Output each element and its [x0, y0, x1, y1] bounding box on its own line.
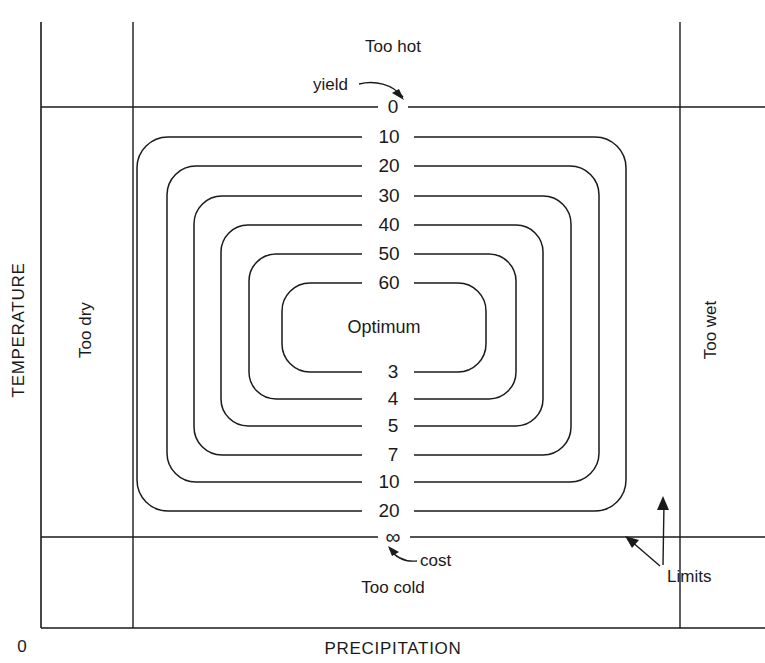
limits-leader-line-horizontal: [631, 541, 660, 566]
contour-label-top-30: 30: [378, 185, 399, 206]
yield-label: yield: [313, 75, 348, 94]
contour-label-bottom-3: 3: [388, 361, 399, 382]
region-label-too-dry: Too dry: [76, 302, 95, 358]
contour-label-top-50: 50: [378, 243, 399, 264]
contour-label-top-10: 10: [378, 126, 399, 147]
limits-annotation: Limits: [625, 496, 711, 586]
cost-label: cost: [420, 551, 451, 570]
contour-label-bottom-10: 10: [378, 471, 399, 492]
region-label-too-hot: Too hot: [365, 37, 421, 56]
contour-labels-top: 0 10 20 30 40 50 60: [378, 96, 399, 293]
contour-labels-bottom: 3 4 5 7 10 20 ∞: [378, 361, 400, 548]
limits-label: Limits: [667, 567, 711, 586]
origin-label: 0: [17, 637, 26, 656]
cost-annotation: cost: [388, 546, 451, 570]
contour-label-top-40: 40: [378, 214, 399, 235]
region-label-too-cold: Too cold: [361, 578, 424, 597]
contour-label-bottom-infinity: ∞: [386, 525, 401, 548]
contour-diagram: 0 10 20 30 40 50 60 3 4 5 7 10 20 ∞ Too …: [0, 0, 765, 663]
region-label-too-wet: Too wet: [701, 300, 720, 359]
contour-label-bottom-5: 5: [388, 415, 399, 436]
contour-label-top-60: 60: [378, 272, 399, 293]
y-axis-title: TEMPERATURE: [9, 263, 28, 398]
contour-label-bottom-20: 20: [378, 500, 399, 521]
limits-leader-line-vertical: [663, 503, 664, 565]
x-axis-title: PRECIPITATION: [325, 639, 462, 658]
contour-label-top-20: 20: [378, 155, 399, 176]
contour-label-bottom-7: 7: [388, 444, 399, 465]
limits-arrowhead-vertical: [657, 496, 669, 510]
contour-label-bottom-4: 4: [388, 388, 399, 409]
contour-label-top-0: 0: [388, 96, 399, 117]
region-label-optimum: Optimum: [347, 317, 420, 337]
